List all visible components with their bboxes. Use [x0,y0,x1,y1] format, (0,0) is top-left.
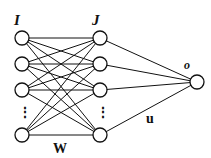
nodes [15,31,204,142]
hidden-node [93,31,107,45]
input-node [15,128,29,142]
output-label: o [184,58,190,72]
input-node [15,31,29,45]
connections [22,38,197,135]
hidden-node [93,57,107,71]
output-node [190,75,204,89]
weight-u-edge [100,82,197,90]
hidden-node [93,83,107,97]
input-node [15,83,29,97]
hidden-layer-label: J [91,12,100,28]
weight-u-edge [100,38,197,82]
input-layer-label: I [13,12,21,28]
input-ellipsis: ⋮ [18,105,32,120]
input-node [15,57,29,71]
hidden-ellipsis: ⋮ [96,105,110,120]
weight-u-edge [100,82,197,135]
neural-network-diagram: I J o W u ⋮ ⋮ [0,0,211,158]
weight-u-edge [100,64,197,82]
weights-u-label: u [146,111,154,126]
hidden-node [93,128,107,142]
weights-w-label: W [53,141,67,156]
